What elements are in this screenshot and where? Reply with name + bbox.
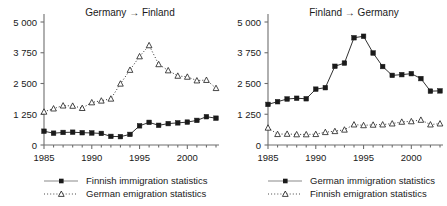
data-point-square bbox=[352, 35, 357, 40]
y-tick-label: 1 250 bbox=[13, 109, 37, 120]
legend-right: German immigration statisticsFinnish emi… bbox=[224, 172, 447, 206]
legend-label: German immigration statistics bbox=[310, 175, 435, 186]
chart-title: Finland → Germany bbox=[309, 7, 398, 18]
data-point-triangle bbox=[156, 61, 162, 66]
data-point-square bbox=[185, 120, 190, 125]
data-point-square bbox=[323, 85, 328, 90]
y-tick-label: 2 500 bbox=[237, 78, 261, 89]
data-point-square bbox=[204, 114, 209, 119]
data-point-square bbox=[70, 130, 75, 135]
chart-panel-germany-to-finland: Germany → Finland01 2502 5003 7505 00019… bbox=[0, 0, 223, 206]
data-point-square bbox=[137, 124, 142, 129]
data-point-triangle bbox=[51, 106, 57, 111]
data-point-triangle bbox=[127, 67, 133, 72]
data-point-square bbox=[156, 123, 161, 128]
data-point-square bbox=[89, 131, 94, 136]
data-point-square bbox=[380, 64, 385, 69]
x-tick-label: 1990 bbox=[81, 152, 102, 163]
data-point-square bbox=[128, 132, 133, 137]
series-line-1 bbox=[268, 36, 440, 104]
data-point-square bbox=[118, 134, 123, 139]
data-point-square bbox=[342, 61, 347, 66]
data-point-square bbox=[390, 73, 395, 78]
data-point-square bbox=[294, 96, 299, 101]
data-point-square bbox=[409, 71, 414, 76]
data-point-square bbox=[419, 76, 424, 81]
data-point-triangle bbox=[70, 103, 76, 108]
y-tick-label: 0 bbox=[32, 140, 37, 151]
y-tick-label: 3 750 bbox=[13, 47, 37, 58]
y-tick-label: 0 bbox=[256, 140, 261, 151]
data-point-triangle bbox=[351, 122, 357, 127]
data-point-triangle bbox=[370, 122, 376, 127]
data-point-triangle bbox=[275, 131, 281, 136]
data-point-square bbox=[99, 131, 104, 136]
data-point-square bbox=[304, 96, 309, 101]
data-point-square bbox=[333, 64, 338, 69]
data-point-triangle bbox=[213, 85, 219, 90]
x-tick-label: 1985 bbox=[257, 152, 278, 163]
data-point-square bbox=[371, 51, 376, 56]
data-point-square bbox=[166, 121, 171, 126]
data-point-square bbox=[195, 118, 200, 123]
y-tick-label: 5 000 bbox=[13, 17, 37, 28]
data-point-triangle bbox=[89, 99, 95, 104]
data-point-square bbox=[361, 34, 366, 39]
data-point-square bbox=[80, 130, 85, 135]
legend-svg-left: Finnish immigration statisticsGerman emi… bbox=[0, 172, 223, 206]
data-point-square bbox=[175, 121, 180, 126]
data-point-triangle bbox=[389, 121, 395, 126]
data-point-triangle bbox=[108, 96, 114, 101]
chart-panel-finland-to-germany: Finland → Germany01 2502 5003 7505 00019… bbox=[224, 0, 447, 206]
data-point-square bbox=[438, 89, 443, 94]
data-point-triangle bbox=[175, 73, 181, 78]
data-point-triangle bbox=[322, 129, 328, 134]
data-point-square bbox=[275, 99, 280, 104]
x-tick-label: 2000 bbox=[401, 152, 422, 163]
y-tick-label: 1 250 bbox=[237, 109, 261, 120]
data-point-triangle bbox=[418, 117, 424, 122]
data-point-square bbox=[109, 134, 114, 139]
figure-root: Germany → Finland01 2502 5003 7505 00019… bbox=[0, 0, 447, 206]
y-tick-label: 2 500 bbox=[13, 78, 37, 89]
data-point-square bbox=[399, 72, 404, 77]
data-point-square bbox=[51, 131, 56, 136]
data-point-square bbox=[147, 120, 152, 125]
data-point-triangle bbox=[194, 78, 200, 83]
chart-svg-right: Finland → Germany01 2502 5003 7505 00019… bbox=[224, 0, 447, 170]
legend-label: Finnish emigration statistics bbox=[310, 188, 427, 199]
data-point-triangle bbox=[146, 42, 152, 47]
x-tick-label: 1995 bbox=[129, 152, 150, 163]
data-point-triangle bbox=[313, 131, 319, 136]
data-point-square bbox=[285, 97, 290, 102]
data-point-triangle bbox=[265, 125, 271, 130]
y-tick-label: 5 000 bbox=[237, 17, 261, 28]
plot-area-right: Finland → Germany01 2502 5003 7505 00019… bbox=[224, 0, 447, 170]
data-point-triangle bbox=[437, 121, 443, 126]
data-point-square bbox=[266, 102, 271, 107]
data-point-triangle bbox=[41, 109, 47, 114]
legend-marker-square bbox=[283, 179, 288, 184]
data-point-triangle bbox=[332, 128, 338, 133]
legend-label: German emigration statistics bbox=[86, 188, 207, 199]
x-tick-label: 1990 bbox=[305, 152, 326, 163]
plot-area-left: Germany → Finland01 2502 5003 7505 00019… bbox=[0, 0, 223, 170]
x-tick-label: 1985 bbox=[33, 152, 54, 163]
data-point-square bbox=[61, 130, 66, 135]
x-tick-label: 1995 bbox=[353, 152, 374, 163]
data-point-square bbox=[42, 129, 47, 134]
chart-title: Germany → Finland bbox=[85, 7, 174, 18]
data-point-square bbox=[428, 89, 433, 94]
data-point-triangle bbox=[165, 67, 171, 72]
data-point-triangle bbox=[380, 122, 386, 127]
data-point-triangle bbox=[204, 77, 210, 82]
data-point-square bbox=[214, 116, 219, 121]
y-tick-label: 3 750 bbox=[237, 47, 261, 58]
data-point-triangle bbox=[361, 122, 367, 127]
chart-svg-left: Germany → Finland01 2502 5003 7505 00019… bbox=[0, 0, 223, 170]
data-point-triangle bbox=[428, 122, 434, 127]
legend-label: Finnish immigration statistics bbox=[86, 175, 208, 186]
legend-marker-square bbox=[59, 179, 64, 184]
legend-svg-right: German immigration statisticsFinnish emi… bbox=[224, 172, 447, 206]
legend-left: Finnish immigration statisticsGerman emi… bbox=[0, 172, 223, 206]
